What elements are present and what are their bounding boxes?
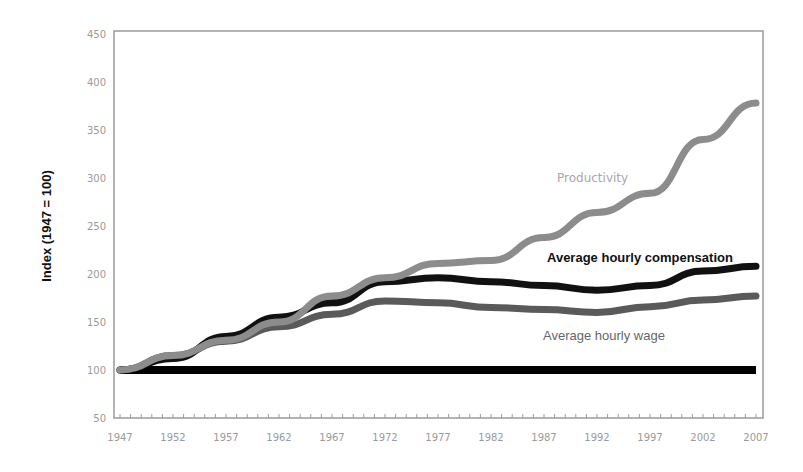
x-tick-label: 1987 [531, 432, 556, 443]
line-chart: 50100150200250300350400450 1947195219571… [0, 0, 803, 472]
annotation-average-hourly-compensation: Average hourly compensation [547, 250, 733, 265]
x-tick-label: 1947 [107, 432, 132, 443]
x-tick-label: 1972 [372, 432, 397, 443]
y-tick-label: 150 [87, 317, 106, 328]
plot-frame [114, 31, 763, 418]
y-axis-label: Index (1947 = 100) [39, 170, 54, 282]
annotation-average-hourly-wage: Average hourly wage [543, 328, 665, 343]
x-tick-label: 2007 [743, 432, 768, 443]
y-tick-label: 50 [93, 413, 106, 424]
series-line-average-hourly-compensation [120, 266, 756, 370]
x-tick-label: 1952 [160, 432, 185, 443]
y-tick-label: 350 [87, 125, 106, 136]
plot-border [114, 31, 763, 418]
y-tick-label: 200 [87, 269, 106, 280]
x-tick-label: 1997 [637, 432, 662, 443]
y-axis: 50100150200250300350400450 [87, 29, 106, 424]
y-tick-label: 400 [87, 77, 106, 88]
x-tick-label: 1962 [266, 432, 291, 443]
x-tick-label: 2002 [690, 432, 715, 443]
y-tick-label: 250 [87, 221, 106, 232]
annotation-productivity: Productivity [557, 171, 628, 185]
x-tick-label: 1967 [319, 432, 344, 443]
x-tick-label: 1977 [425, 432, 450, 443]
y-tick-label: 450 [87, 29, 106, 40]
x-tick-label: 1982 [478, 432, 503, 443]
y-tick-label: 300 [87, 173, 106, 184]
x-tick-label: 1992 [584, 432, 609, 443]
y-tick-label: 100 [87, 365, 106, 376]
x-tick-label: 1957 [213, 432, 238, 443]
